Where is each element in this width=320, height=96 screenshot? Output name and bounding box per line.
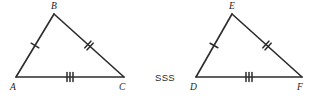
side-ab-ticks xyxy=(31,43,39,48)
vertex-label-f: F xyxy=(296,82,303,92)
side-bc xyxy=(54,14,124,77)
triangle-def xyxy=(196,14,302,77)
triangles-layer xyxy=(16,14,302,77)
sss-congruence-figure: ABCDEF SSS xyxy=(0,0,320,96)
congruence-criterion-label: SSS xyxy=(155,72,175,83)
figure-canvas: ABCDEF SSS xyxy=(0,0,320,96)
side-ef xyxy=(232,14,302,77)
tick-mark xyxy=(31,43,39,48)
vertex-label-e: E xyxy=(228,1,235,11)
vertex-label-a: A xyxy=(9,82,16,92)
vertex-label-b: B xyxy=(51,1,57,11)
vertex-label-c: C xyxy=(119,82,126,92)
tick-marks-layer xyxy=(31,41,271,81)
vertex-label-d: D xyxy=(189,82,197,92)
triangle-abc xyxy=(16,14,124,77)
